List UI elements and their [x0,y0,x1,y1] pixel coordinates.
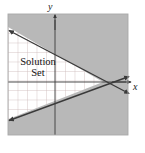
x-axis-label: x [133,82,137,92]
solution-set-line-2: Set [10,67,66,78]
graph-figure: y x Solution Set [0,0,145,153]
solution-set-annotation: Solution Set [10,56,66,78]
solution-set-line-1: Solution [20,56,56,67]
y-axis-label: y [48,2,52,12]
